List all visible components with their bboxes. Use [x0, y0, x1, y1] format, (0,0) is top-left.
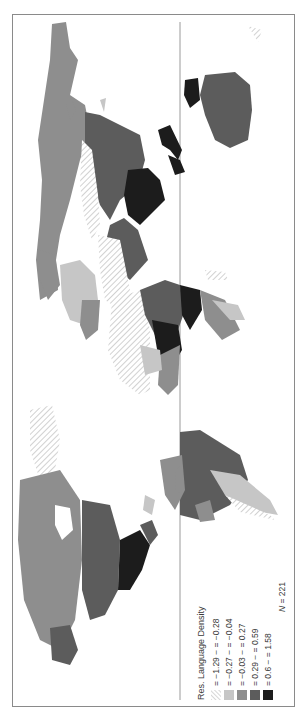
legend-label: = −0.03 − = 0.27	[237, 624, 247, 686]
region-caribbean	[143, 495, 155, 515]
legend-label: = −0.27 − = −0.04	[224, 619, 234, 686]
black-swatch-icon	[263, 690, 273, 700]
legend-item-4: = 0.29 − = 0.59	[248, 560, 261, 700]
dark-gray-swatch-icon	[250, 690, 260, 700]
hatched-swatch-icon	[211, 690, 221, 700]
legend-item-3: = −0.03 − = 0.27	[235, 560, 248, 700]
region-png	[184, 78, 200, 108]
n-value: = 221	[277, 582, 287, 604]
region-greenland	[30, 405, 60, 480]
mid-gray-swatch-icon	[237, 690, 247, 700]
light-gray-swatch-icon	[224, 690, 234, 700]
legend-label: = 0.29 − = 0.59	[250, 629, 260, 686]
region-indonesia	[158, 125, 182, 160]
legend-label: = −1.29 − = −0.28	[211, 619, 221, 686]
legend-item-2: = −0.27 − = −0.04	[222, 560, 235, 700]
region-usa	[82, 500, 120, 620]
region-alaska	[50, 625, 78, 665]
region-australia	[200, 72, 252, 148]
legend: Res. Language Density = −1.29 − = −0.28 …	[196, 560, 286, 700]
region-madagascar	[205, 270, 228, 280]
sample-size-label: N = 221	[277, 582, 287, 612]
region-europe-2	[80, 300, 100, 340]
region-canada	[18, 470, 82, 650]
region-southeast-asia	[124, 168, 165, 225]
n-variable: N	[277, 606, 287, 612]
legend-item-1: = −1.29 − = −0.28	[209, 560, 222, 700]
region-africa-east-black	[180, 285, 202, 330]
legend-label: = 0.6 − = 1.58	[263, 633, 273, 686]
legend-item-5: = 0.6 − = 1.58	[261, 560, 274, 700]
legend-title: Res. Language Density	[196, 560, 206, 700]
region-hatched-small	[248, 26, 262, 42]
region-mexico	[118, 530, 150, 590]
region-japan-2	[100, 98, 106, 112]
